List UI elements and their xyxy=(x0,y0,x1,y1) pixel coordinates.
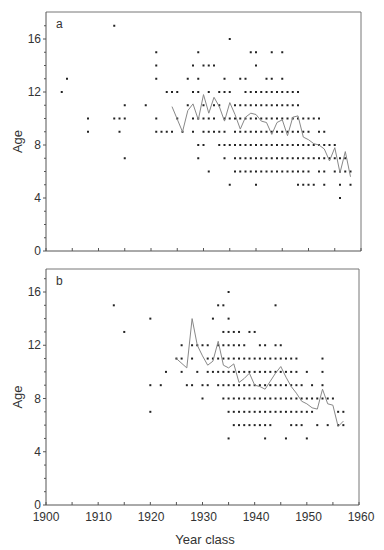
data-point xyxy=(239,78,241,80)
data-point xyxy=(260,157,262,159)
data-point xyxy=(271,104,273,106)
data-point xyxy=(208,65,210,67)
data-point xyxy=(234,104,236,106)
data-point xyxy=(280,411,282,413)
data-point xyxy=(208,91,210,93)
data-point xyxy=(212,371,214,373)
data-point xyxy=(171,91,173,93)
data-point xyxy=(187,78,189,80)
y-tick-label: 8 xyxy=(34,392,41,406)
data-point xyxy=(192,118,194,120)
data-point xyxy=(250,157,252,159)
data-point xyxy=(308,171,310,173)
data-point xyxy=(160,384,162,386)
data-point xyxy=(269,398,271,400)
data-point xyxy=(155,51,157,53)
data-point xyxy=(276,118,278,120)
data-point xyxy=(306,371,308,373)
data-point xyxy=(213,104,215,106)
data-point xyxy=(239,171,241,173)
data-point xyxy=(301,424,303,426)
data-point xyxy=(302,118,304,120)
data-point xyxy=(166,131,168,133)
data-point xyxy=(260,171,262,173)
data-point xyxy=(259,424,261,426)
data-point xyxy=(181,358,183,360)
data-point xyxy=(269,371,271,373)
data-point xyxy=(287,157,289,159)
data-point xyxy=(275,344,277,346)
data-point xyxy=(302,184,304,186)
data-point xyxy=(245,104,247,106)
data-point xyxy=(255,65,257,67)
data-point xyxy=(311,411,313,413)
data-point xyxy=(306,398,308,400)
data-point xyxy=(311,398,313,400)
data-point xyxy=(203,104,205,106)
data-point xyxy=(264,344,266,346)
data-point xyxy=(243,411,245,413)
data-point xyxy=(281,131,283,133)
data-point xyxy=(290,371,292,373)
data-point xyxy=(124,118,126,120)
panel-label: a xyxy=(56,17,63,31)
data-point xyxy=(260,118,262,120)
data-point xyxy=(165,371,167,373)
data-point xyxy=(238,411,240,413)
data-point xyxy=(295,411,297,413)
data-point xyxy=(250,91,252,93)
data-point xyxy=(342,424,344,426)
data-point xyxy=(243,384,245,386)
data-point xyxy=(181,371,183,373)
data-point xyxy=(306,411,308,413)
data-point xyxy=(271,51,273,53)
data-point xyxy=(302,157,304,159)
data-point xyxy=(281,157,283,159)
x-tick-label: 1920 xyxy=(138,510,165,524)
data-point xyxy=(281,104,283,106)
data-point xyxy=(191,344,193,346)
data-point xyxy=(269,424,271,426)
data-point xyxy=(266,104,268,106)
data-point xyxy=(295,398,297,400)
data-point xyxy=(239,144,241,146)
data-point xyxy=(255,131,257,133)
data-point xyxy=(318,171,320,173)
data-point xyxy=(295,424,297,426)
data-point xyxy=(255,51,257,53)
data-point xyxy=(124,104,126,106)
data-point xyxy=(327,424,329,426)
data-point xyxy=(292,131,294,133)
panel-label: b xyxy=(56,274,63,288)
data-point xyxy=(228,291,230,293)
data-point xyxy=(234,144,236,146)
data-points xyxy=(113,291,345,439)
data-point xyxy=(228,318,230,320)
x-axis-title: Year class xyxy=(175,532,235,547)
data-point xyxy=(243,424,245,426)
panel-a: 0481216Agea xyxy=(10,12,361,258)
data-point xyxy=(233,371,235,373)
data-point xyxy=(271,78,273,80)
data-point xyxy=(259,371,261,373)
data-point xyxy=(166,91,168,93)
data-point xyxy=(245,144,247,146)
data-point xyxy=(203,118,205,120)
data-point xyxy=(295,358,297,360)
data-point xyxy=(87,118,89,120)
data-point xyxy=(192,65,194,67)
data-point xyxy=(276,171,278,173)
data-point xyxy=(287,104,289,106)
data-point xyxy=(234,131,236,133)
data-point xyxy=(203,131,205,133)
data-point xyxy=(254,398,256,400)
data-point xyxy=(191,384,193,386)
data-point xyxy=(321,398,323,400)
data-point xyxy=(61,91,63,93)
data-point xyxy=(266,144,268,146)
data-point xyxy=(176,91,178,93)
data-point xyxy=(281,51,283,53)
data-point xyxy=(297,184,299,186)
data-point xyxy=(222,358,224,360)
data-point xyxy=(155,118,157,120)
